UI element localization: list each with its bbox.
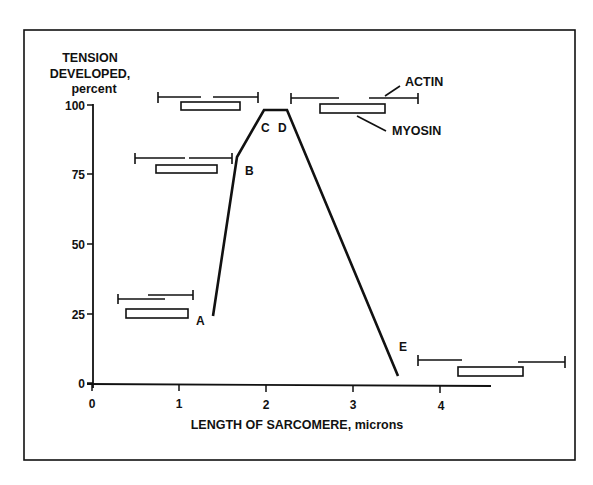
y-axis-title-line1: TENSION [62, 51, 118, 65]
y-tick-label-25: 25 [72, 308, 86, 322]
x-axis-title: LENGTH OF SARCOMERE, microns [191, 418, 404, 432]
myosin-leader-line [357, 116, 386, 131]
x-tick-label-3: 3 [350, 398, 357, 412]
tension-curve [213, 110, 398, 376]
point-label-d: D [278, 121, 287, 135]
y-tick-label-50: 50 [72, 238, 86, 252]
point-label-b: B [245, 164, 254, 178]
chart-figure: TENSION DEVELOPED, percent 100 75 50 25 … [0, 0, 593, 485]
actin-leader-line [385, 86, 400, 96]
sarcomere-diagram-c [158, 92, 258, 110]
sarcomere-diagram-b [135, 153, 232, 173]
y-tick-label-100: 100 [65, 99, 85, 113]
actin-annotation: ACTIN [405, 75, 443, 89]
sarcomere-diagram-d [291, 93, 418, 113]
point-label-a: A [196, 314, 205, 328]
x-tick-label-0: 0 [89, 397, 96, 411]
y-axis-title-line2: DEVELOPED, [50, 67, 131, 81]
sarcomere-diagram-e [418, 355, 565, 376]
x-tick-label-4: 4 [438, 399, 445, 413]
y-tick-label-75: 75 [72, 168, 86, 182]
point-label-e: E [399, 340, 407, 354]
myosin-annotation: MYOSIN [392, 124, 441, 138]
x-tick-label-2: 2 [263, 398, 270, 412]
x-axis [87, 384, 491, 386]
sarcomere-diagram-a [118, 290, 193, 318]
y-tick-label-0: 0 [78, 377, 85, 391]
x-tick-label-1: 1 [176, 397, 183, 411]
y-axis-title-line3: percent [71, 82, 117, 96]
point-label-c: C [261, 121, 270, 135]
